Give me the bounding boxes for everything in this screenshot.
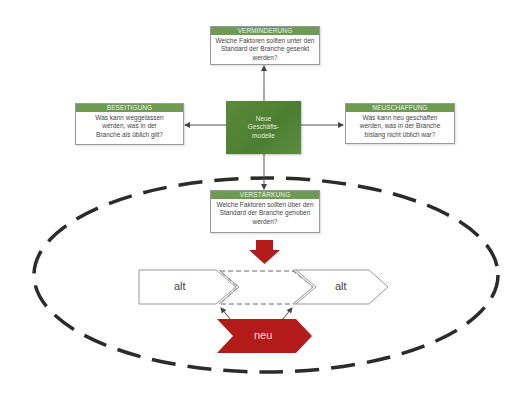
label-neu: neu [254,329,272,341]
box-verminderung-title: VERMINDERUNG [211,27,319,35]
arrow-neu-to-slot-left [221,308,231,320]
red-down-arrow-icon [249,240,280,264]
box-beseitigung-text: Was kann weggelassen werden, was in der … [76,112,183,139]
box-beseitigung-title: BESEITIGUNG [76,104,183,112]
label-alt-left: alt [174,280,186,292]
box-verstaerkung-text: Welche Faktoren sollten über den Standar… [211,199,319,226]
box-neuschaffung-text: Was kann neu geschaffen werden, was in d… [346,112,454,139]
box-neuschaffung: NEUSCHAFFUNG Was kann neu geschaffen wer… [345,103,455,144]
center-label: Neue Geschäfts-modelle [244,115,284,141]
box-beseitigung: BESEITIGUNG Was kann weggelassen werden,… [75,103,184,145]
arrow-neu-to-slot-right [282,308,292,320]
box-neuschaffung-title: NEUSCHAFFUNG [346,104,454,112]
box-verminderung-text: Welche Faktoren sollten unter den Standa… [211,35,319,62]
box-verstaerkung-title: VERSTÄRKUNG [211,191,319,199]
chevron-alt-left [139,270,236,304]
center-new-business-models: Neue Geschäfts-modelle [226,101,301,154]
label-alt-right: alt [335,280,347,292]
box-verminderung: VERMINDERUNG Welche Faktoren sollten unt… [210,26,320,65]
box-verstaerkung: VERSTÄRKUNG Welche Faktoren sollten über… [210,190,320,233]
